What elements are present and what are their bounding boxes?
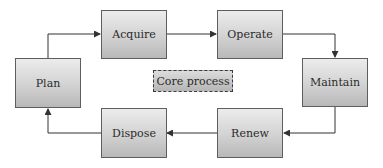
node-operate-label: Operate <box>227 28 272 41</box>
node-plan: Plan <box>15 58 81 108</box>
arrow-dispose-to-plan <box>48 109 101 133</box>
node-acquire: Acquire <box>101 10 167 59</box>
node-maintain: Maintain <box>302 58 368 107</box>
node-renew: Renew <box>217 108 283 158</box>
node-plan-label: Plan <box>36 77 61 90</box>
core-process-label-box: Core process <box>153 70 233 92</box>
core-process-label: Core process <box>156 75 229 88</box>
arrow-operate-to-maintain <box>283 34 335 57</box>
arrow-plan-to-acquire <box>48 34 100 58</box>
node-maintain-label: Maintain <box>310 76 360 89</box>
node-acquire-label: Acquire <box>112 28 156 41</box>
node-dispose: Dispose <box>101 108 167 158</box>
arrow-maintain-to-renew <box>284 107 335 133</box>
node-renew-label: Renew <box>231 127 269 140</box>
node-operate: Operate <box>217 10 283 59</box>
node-dispose-label: Dispose <box>112 127 156 140</box>
